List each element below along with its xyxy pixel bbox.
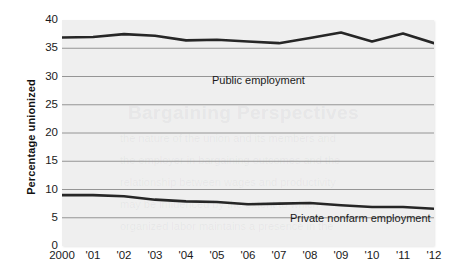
x-tick-label-2011: '11 xyxy=(396,249,410,262)
y-tick-label-40: 40 xyxy=(28,14,58,26)
x-tick-label-2005: '05 xyxy=(210,249,225,262)
series-lines xyxy=(62,32,434,208)
x-tick-label-2012: '12 xyxy=(427,249,442,262)
x-tick-label-2008: '08 xyxy=(303,249,318,262)
series-line-1 xyxy=(62,195,434,209)
series-line-0 xyxy=(62,32,434,43)
series-label-public-employment: Public employment xyxy=(212,74,305,86)
x-tick-label-2009: '09 xyxy=(334,249,349,262)
y-axis-tick-labels: 0510152025303540 xyxy=(28,20,58,246)
x-axis-tick-labels: 2000'01'02'03'04'05'06'07'08'09'10'11'12 xyxy=(62,249,434,267)
y-tick-label-30: 30 xyxy=(28,71,58,83)
y-tick-label-25: 25 xyxy=(28,99,58,111)
x-tick-label-2007: '07 xyxy=(272,249,287,262)
x-tick-label-2006: '06 xyxy=(241,249,256,262)
x-tick-label-2010: '10 xyxy=(365,249,380,262)
y-tick-label-35: 35 xyxy=(28,43,58,55)
plot-area: Bargaining Perspectives the nature of th… xyxy=(62,20,434,246)
x-tick-label-2001: '01 xyxy=(86,249,101,262)
series-label-private-nonfarm-employment: Private nonfarm employment xyxy=(290,212,431,224)
y-tick-label-10: 10 xyxy=(28,184,58,196)
union-membership-line-chart: Percentage unionized 0510152025303540 Ba… xyxy=(0,0,449,278)
x-tick-label-2000: 2000 xyxy=(49,249,75,262)
x-tick-label-2004: '04 xyxy=(179,249,194,262)
y-tick-label-20: 20 xyxy=(28,127,58,139)
y-tick-label-5: 5 xyxy=(28,212,58,224)
y-tick-label-15: 15 xyxy=(28,156,58,168)
x-tick-label-2002: '02 xyxy=(117,249,132,262)
x-tick-label-2003: '03 xyxy=(148,249,163,262)
